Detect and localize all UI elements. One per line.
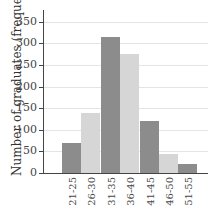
x-tick-label: 36-40	[120, 177, 139, 211]
x-tick-label: 51-55	[178, 177, 197, 211]
y-tick-label: 150	[12, 102, 37, 114]
x-tick-label: 21-25	[62, 177, 81, 211]
x-axis-line	[43, 173, 208, 174]
bar-36-40	[120, 54, 139, 173]
y-tick-label: 300	[12, 37, 37, 49]
bar-26-30	[81, 113, 100, 173]
histogram-chart: Number of graduates (frequency) 05010015…	[0, 0, 213, 213]
y-tick-label: 50	[12, 145, 37, 157]
bar-41-45	[140, 121, 159, 173]
y-tick-label: 100	[12, 124, 37, 136]
gridline	[44, 22, 208, 23]
bar-31-35	[101, 37, 120, 173]
gridline	[44, 43, 208, 44]
bar-21-25	[62, 143, 81, 173]
x-tick-label: 31-35	[101, 177, 120, 211]
y-tick-label: 350	[12, 16, 37, 28]
x-tick-label: 46-50	[159, 177, 178, 211]
bar-46-50	[159, 154, 178, 173]
y-tick-label: 0	[12, 167, 37, 179]
y-tick-label: 200	[12, 81, 37, 93]
y-axis-line	[43, 10, 44, 173]
x-tick-label: 41-45	[140, 177, 159, 211]
x-tick-label: 26-30	[81, 177, 100, 211]
bar-51-55	[178, 164, 197, 173]
y-tick-label: 250	[12, 59, 37, 71]
